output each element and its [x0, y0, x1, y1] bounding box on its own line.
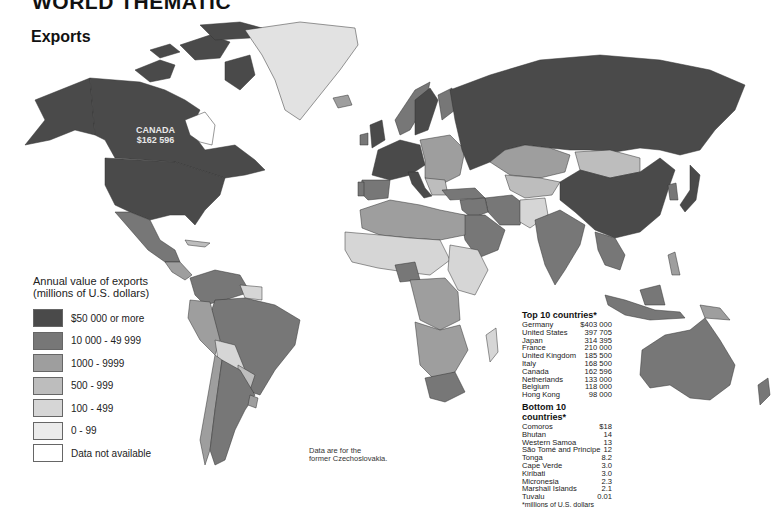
legend-label: 100 - 499: [71, 403, 113, 414]
legend-item-no-data: Data not available: [33, 442, 151, 465]
legend-swatch: [33, 399, 63, 417]
central-america: [165, 262, 192, 280]
mexico: [115, 212, 180, 262]
bottom10-title: Bottom 10 countries*: [522, 402, 612, 422]
papua-new-guinea: [700, 305, 730, 320]
canada-map-label: CANADA $162 596: [136, 125, 175, 145]
note-line2: former Czechoslovakia.: [309, 455, 387, 463]
legend-label: 10 000 - 49 999: [71, 335, 141, 346]
legend-item-1000-9999: 1000 - 9999: [33, 352, 151, 375]
new-zealand: [758, 378, 770, 405]
czechoslovakia-note: Data are for the former Czechoslovakia.: [309, 447, 387, 463]
bottom10-row: Tuvalu0.01: [522, 493, 612, 501]
legend-item-10000-49999: 10 000 - 49 999: [33, 330, 151, 353]
country-value: 0.01: [597, 493, 612, 501]
uruguay: [248, 395, 258, 408]
borneo: [640, 285, 665, 305]
australia: [640, 318, 735, 400]
canada-arctic-islands: [135, 22, 262, 90]
cuba: [185, 240, 210, 247]
country-name: Hong Kong: [522, 391, 560, 399]
canada-name: CANADA: [136, 125, 175, 135]
uk: [370, 120, 385, 148]
korea: [668, 183, 678, 200]
legend-title-line1: Annual value of exports: [33, 275, 151, 287]
legend-title: Annual value of exports (millions of U.S…: [33, 275, 151, 299]
guyanas: [240, 285, 262, 300]
legend-label: Data not available: [71, 448, 151, 459]
madagascar: [486, 328, 498, 362]
top10-title: Top 10 countries*: [522, 310, 612, 320]
top10-row: Hong Kong98 000: [522, 391, 612, 399]
legend-label: 1000 - 9999: [71, 358, 124, 369]
legend-label: $50 000 or more: [71, 313, 144, 324]
turkey: [442, 188, 485, 200]
legend-item-500-999: 500 - 999: [33, 375, 151, 398]
legend-swatch: [33, 332, 63, 350]
india: [535, 210, 585, 285]
country-name: Tuvalu: [522, 493, 545, 501]
southeast-asia: [595, 232, 625, 270]
ireland: [360, 133, 368, 145]
legend-item-0-99: 0 - 99: [33, 420, 151, 443]
alaska: [25, 78, 95, 145]
legend-swatch: [33, 354, 63, 372]
country-rankings: Top 10 countries* Germany$403 000 United…: [522, 310, 612, 509]
legend-swatch: [33, 309, 63, 327]
legend-swatch: [33, 422, 63, 440]
legend-item-100-499: 100 - 499: [33, 397, 151, 420]
japan: [680, 165, 700, 212]
legend-title-line2: (millions of U.S. dollars): [33, 287, 151, 299]
canada-value: $162 596: [136, 135, 175, 145]
north-africa: [360, 200, 465, 240]
eastern-europe: [420, 135, 465, 185]
legend-item-50000-plus: $50 000 or more: [33, 307, 151, 330]
philippines: [668, 252, 680, 275]
south-africa: [425, 372, 465, 402]
legend-swatch: [33, 444, 63, 462]
legend-label: 500 - 999: [71, 380, 113, 391]
country-value: 98 000: [589, 391, 612, 399]
iberia: [360, 180, 390, 200]
central-asia: [505, 175, 560, 198]
footnote: *millions of U.S. dollars: [522, 501, 612, 509]
legend-swatch: [33, 377, 63, 395]
legend-label: 0 - 99: [71, 425, 97, 436]
portugal: [358, 182, 364, 196]
southern-africa: [415, 322, 468, 380]
legend: Annual value of exports (millions of U.S…: [33, 275, 151, 465]
central-africa: [410, 278, 460, 330]
iceland: [333, 95, 352, 108]
